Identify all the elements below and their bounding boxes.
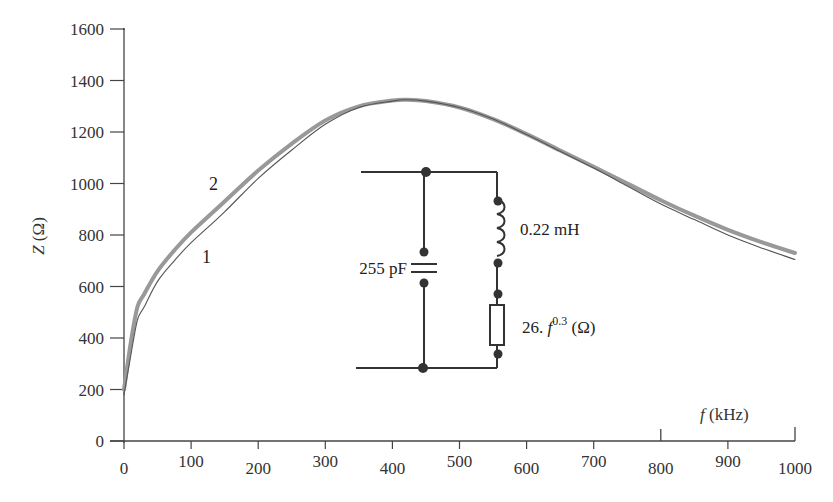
x-tick-label: 0: [120, 459, 129, 478]
series-label-2: 2: [209, 174, 218, 194]
data-series: [124, 100, 795, 395]
y-tick-label: 1400: [70, 72, 104, 91]
y-tick-label: 800: [79, 226, 105, 245]
x-tick-label: 800: [648, 459, 674, 478]
x-tick-label: 200: [245, 459, 271, 478]
impedance-chart: 0200400600800100012001400160001002003004…: [0, 0, 833, 502]
series-label-1: 1: [202, 247, 211, 267]
node-dot: [494, 259, 503, 268]
x-tick-label: 400: [380, 459, 406, 478]
resistor-label: 26. f0.3 (Ω): [522, 314, 595, 337]
y-tick-label: 0: [96, 432, 105, 451]
y-axis-title: Z (Ω): [29, 217, 48, 255]
axes: [110, 29, 795, 443]
node-dot: [420, 248, 429, 257]
y-tick-label: 400: [79, 329, 105, 348]
y-tick-label: 1200: [70, 123, 104, 142]
inductor-coil-icon: [497, 200, 505, 256]
node-dot: [418, 363, 428, 373]
node-dot: [420, 279, 429, 288]
node-dot: [494, 350, 503, 359]
y-tick-label: 1600: [70, 20, 104, 39]
x-tick-label: 900: [715, 452, 741, 471]
series-line-2: [124, 100, 795, 390]
y-tick-label: 200: [79, 381, 105, 400]
series-line-1: [124, 100, 795, 395]
inductor-label: 0.22 mH: [520, 220, 580, 239]
x-tick-label: 1000: [778, 459, 812, 478]
node-dot: [421, 167, 431, 177]
x-tick-label: 600: [514, 459, 540, 478]
x-tick-label: 700: [581, 452, 607, 471]
x-tick-label: 100: [178, 452, 204, 471]
x-axis-title: f (kHz): [700, 405, 749, 424]
node-dot: [494, 290, 503, 299]
x-tick-label: 300: [313, 452, 339, 471]
x-tick-label: 500: [447, 452, 473, 471]
node-dot: [494, 197, 503, 206]
y-tick-label: 600: [79, 278, 105, 297]
capacitor-label: 255 pF: [359, 259, 407, 278]
resistor-icon: [490, 305, 504, 345]
y-tick-label: 1000: [70, 175, 104, 194]
